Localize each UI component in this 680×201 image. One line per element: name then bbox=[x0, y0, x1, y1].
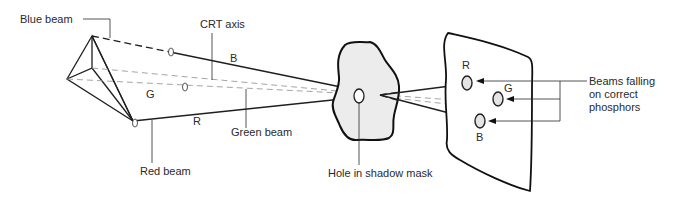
green-phosphor-dot bbox=[493, 92, 503, 106]
green-beam-focus-mark bbox=[183, 83, 188, 91]
diagram-canvas: Blue beam CRT axis Green beam Red beam H… bbox=[0, 0, 680, 201]
label-blue-beam: Blue beam bbox=[20, 13, 73, 25]
letter-g-beam: G bbox=[146, 88, 155, 100]
label-beams-falling-3: phosphors bbox=[589, 101, 641, 113]
label-beams-falling-1: Beams falling bbox=[589, 75, 655, 87]
red-beam-focus-mark bbox=[133, 119, 138, 127]
blue-beam-leader bbox=[83, 19, 110, 38]
shadow-mask-hole bbox=[354, 89, 364, 103]
label-beams-falling-2: on correct bbox=[589, 88, 638, 100]
blue-phosphor-dot bbox=[475, 114, 485, 128]
red-phosphor-dot bbox=[462, 76, 472, 90]
blue-beam-dashed bbox=[92, 36, 170, 52]
gun-inner-diagonal bbox=[92, 68, 133, 121]
letter-b-beam: B bbox=[230, 52, 237, 64]
phosphor-screen bbox=[444, 33, 532, 191]
blue-beam-focus-mark bbox=[169, 48, 174, 56]
label-hole-in-shadow-mask: Hole in shadow mask bbox=[328, 167, 433, 179]
letter-b-dot: B bbox=[476, 131, 483, 143]
letter-g-dot: G bbox=[504, 82, 513, 94]
label-green-beam: Green beam bbox=[231, 126, 292, 138]
letter-r-beam: R bbox=[193, 115, 201, 127]
letter-r-dot: R bbox=[462, 59, 470, 71]
crt-shadow-mask-diagram: Blue beam CRT axis Green beam Red beam H… bbox=[0, 0, 680, 201]
label-crt-axis: CRT axis bbox=[200, 18, 245, 30]
label-red-beam: Red beam bbox=[140, 165, 191, 177]
shadow-mask bbox=[333, 42, 400, 140]
electron-gun-assembly bbox=[67, 36, 133, 121]
